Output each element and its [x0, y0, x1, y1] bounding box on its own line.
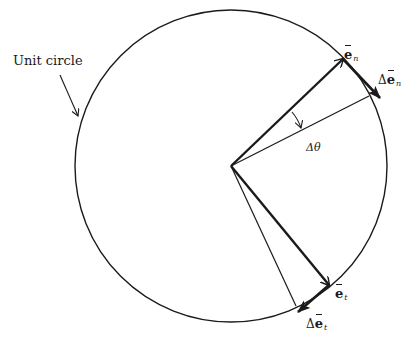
e-t-subscript: t: [344, 293, 347, 302]
e-t-vector: [231, 166, 329, 285]
unit-circle-pointer-arrow: [60, 75, 78, 116]
delta-theta-label: Δθ: [306, 138, 321, 154]
delta-e-t-label: Δet: [306, 315, 327, 332]
delta-theta-arc-arrow: [292, 112, 301, 128]
delta-e-n-delta: Δ: [378, 73, 387, 87]
delta-e-n-symbol: e: [387, 73, 395, 86]
e-t-symbol: e: [335, 287, 343, 300]
e-n-subscript: n: [353, 54, 358, 63]
delta-e-t-delta: Δ: [306, 317, 315, 331]
delta-e-n-label: Δen: [378, 71, 401, 88]
diagram-canvas: Unit circle en Δen Δθ et Δet: [0, 0, 407, 340]
delta-theta-symbol: θ: [314, 141, 321, 154]
unit-circle-label: Unit circle: [13, 54, 83, 67]
delta-e-t-symbol: e: [315, 317, 323, 330]
delta-e-n-subscript: n: [396, 79, 401, 88]
e-n-symbol: e: [344, 48, 352, 61]
rotated-radius-n: [231, 96, 369, 166]
delta-e-t-vector: [298, 285, 329, 312]
delta-theta-delta: Δ: [306, 141, 314, 154]
e-n-label: en: [344, 46, 358, 63]
delta-e-n-vector: [343, 59, 380, 98]
e-t-label: et: [335, 285, 348, 302]
e-n-vector: [231, 59, 343, 166]
delta-e-t-subscript: t: [324, 323, 327, 332]
rotated-radius-t: [231, 166, 296, 306]
